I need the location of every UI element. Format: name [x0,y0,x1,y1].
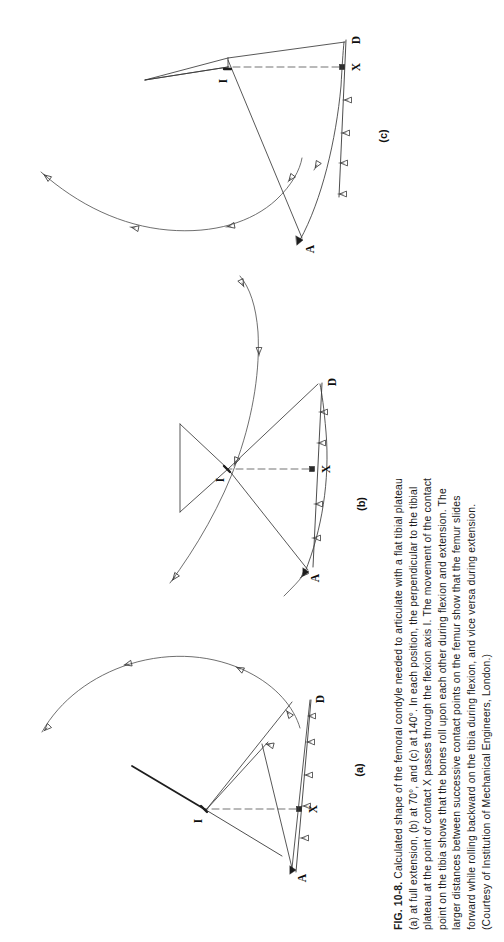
panel-b-letter: (b) [355,497,367,511]
caption-line-3: plateau at the point of contact X passes… [421,0,436,930]
caption-line-1: FIG. 10-8. Calculated shape of the femor… [392,0,407,930]
panel-b-artwork [170,276,327,596]
figure-svg [0,0,392,942]
caption-line-7: (Courtesy of Institution of Mechanical E… [480,0,495,930]
figure-artwork: D X A I (a) D X A I (b) D X A I (c) [0,0,392,942]
caption-text-1: Calculated shape of the femoral condyle … [393,478,404,879]
caption-line-2: (a) at full extension, (b) at 70°, and (… [407,0,422,930]
panel-a-artwork [42,656,312,874]
figure-caption-block: FIG. 10-8. Calculated shape of the femor… [392,0,504,942]
figure-page: D X A I (a) D X A I (b) D X A I (c) FIG.… [0,0,504,942]
figure-number: FIG. 10-8. [393,882,404,930]
caption-line-5: larger distances between successive cont… [450,0,465,930]
panel-c-artwork [41,40,348,245]
figure-caption-rotated: FIG. 10-8. Calculated shape of the femor… [392,0,504,930]
panel-c-letter: (c) [377,129,389,142]
caption-line-4: point on the tibia shows that the bones … [436,0,451,930]
caption-line-6: forward while rolling backward on the ti… [465,0,480,930]
panel-a-letter: (a) [353,763,365,776]
